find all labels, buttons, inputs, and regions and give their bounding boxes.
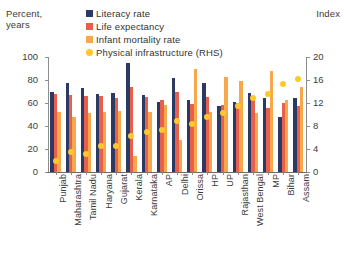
bar-infant-mortality-rate [239, 81, 242, 172]
left-axis-tick-mark [45, 172, 48, 173]
x-axis-category-label: HP [211, 174, 220, 187]
bar-infant-mortality-rate [133, 156, 136, 172]
x-axis-tick-mark [162, 172, 163, 175]
right-axis-tick-label: 0 [313, 167, 339, 177]
bar-infant-mortality-rate [148, 112, 151, 172]
infrastructure-marker-dot [144, 129, 150, 135]
legend-swatch-icon [86, 36, 93, 43]
bar-infant-mortality-rate [300, 87, 303, 172]
x-axis-category-label: Maharashtra [74, 174, 83, 226]
legend-label: Life expectancy [96, 21, 164, 32]
x-axis-category-labels: PunjabMaharashtraTamil NaduHaryanaGujara… [48, 174, 306, 258]
bar-group [291, 57, 306, 172]
bar-group [185, 57, 200, 172]
x-axis-tick-mark [192, 172, 193, 175]
left-axis-tick-label: 60 [12, 98, 38, 108]
x-axis-category-label: Punjab [59, 174, 68, 203]
x-axis-category-label: Karnataka [150, 174, 159, 216]
right-axis-tick-label: 12 [313, 98, 339, 108]
x-axis-category-label: Orissa [196, 174, 205, 201]
x-axis-category-label: Delhi [181, 174, 190, 195]
right-axis-tick-mark [307, 126, 310, 127]
left-axis-tick-label: 40 [12, 121, 38, 131]
x-axis-tick-mark [131, 172, 132, 175]
bar-group [94, 57, 109, 172]
bar-group [260, 57, 275, 172]
infrastructure-marker-dot [265, 91, 271, 97]
right-axis-line [306, 57, 307, 173]
bar-infant-mortality-rate [194, 69, 197, 173]
legend-item: Literacy rate [86, 7, 276, 19]
bar-group [109, 57, 124, 172]
x-axis-category-label: Haryana [105, 174, 114, 209]
legend-label: Literacy rate [96, 8, 150, 19]
x-axis-tick-mark [268, 172, 269, 175]
x-axis-category-label: AP [165, 174, 174, 186]
legend-swatch-icon [86, 49, 93, 56]
chart-legend: Literacy rateLife expectancyInfant morta… [86, 7, 276, 59]
x-axis-category-label: West Bengal [256, 174, 265, 226]
x-axis-tick-mark [101, 172, 102, 175]
infrastructure-marker-dot [220, 110, 226, 116]
bar-group [139, 57, 154, 172]
bar-infant-mortality-rate [103, 112, 106, 172]
right-axis-unit-label: Index [316, 8, 340, 19]
bar-group [245, 57, 260, 172]
bar-infant-mortality-rate [270, 71, 273, 172]
right-axis-tick-label: 4 [313, 144, 339, 154]
bar-infant-mortality-rate [224, 77, 227, 172]
infrastructure-marker-dot [159, 127, 165, 133]
bar-infant-mortality-rate [118, 111, 121, 172]
x-axis-tick-mark [253, 172, 254, 175]
right-axis-tick-mark [307, 57, 310, 58]
right-axis-tick-label: 20 [313, 52, 339, 62]
x-axis-category-label: Bihar [287, 174, 296, 196]
bar-group [124, 57, 139, 172]
bar-group [48, 57, 63, 172]
x-axis-tick-mark [223, 172, 224, 175]
bar-infant-mortality-rate [285, 100, 288, 172]
right-axis-tick-label: 16 [313, 75, 339, 85]
bar-group [276, 57, 291, 172]
bar-group [169, 57, 184, 172]
legend-label: Infant mortality rate [96, 34, 180, 45]
right-axis-tick-mark [307, 172, 310, 173]
x-axis-tick-mark [238, 172, 239, 175]
chart-container: Percent, years Index Literacy rateLife e… [0, 0, 344, 258]
x-axis-tick-mark [207, 172, 208, 175]
left-axis-unit-label: Percent, years [6, 8, 42, 30]
infrastructure-marker-dot [53, 158, 59, 164]
x-axis-category-label: Kerala [135, 174, 144, 201]
x-axis-category-label: Tamil Nadu [89, 174, 98, 220]
x-axis-tick-mark [177, 172, 178, 175]
left-axis-tick-label: 20 [12, 144, 38, 154]
bar-group [154, 57, 169, 172]
infrastructure-marker-dot [83, 151, 89, 157]
x-axis-category-label: Assam [302, 174, 311, 202]
x-axis-tick-mark [56, 172, 57, 175]
x-axis-tick-mark [283, 172, 284, 175]
bar-infant-mortality-rate [88, 113, 91, 172]
x-axis-category-label: Gujarat [120, 174, 129, 204]
legend-item: Infant mortality rate [86, 33, 276, 45]
x-axis-tick-mark [147, 172, 148, 175]
legend-label: Physical infrastructure (RHS) [96, 47, 223, 58]
right-axis-tick-mark [307, 149, 310, 150]
left-axis-tick-label: 80 [12, 75, 38, 85]
bar-infant-mortality-rate [72, 117, 75, 172]
x-axis-tick-mark [116, 172, 117, 175]
x-axis-category-label: MP [272, 174, 281, 188]
bar-infant-mortality-rate [255, 113, 258, 172]
right-axis-tick-mark [307, 80, 310, 81]
left-axis-tick-label: 100 [12, 52, 38, 62]
bar-infant-mortality-rate [179, 140, 182, 172]
plot-area [48, 57, 306, 172]
x-axis-category-label: Rajasthan [241, 174, 250, 215]
infrastructure-marker-dot [68, 149, 74, 155]
bar-infant-mortality-rate [209, 112, 212, 172]
bar-group [230, 57, 245, 172]
x-axis-tick-mark [86, 172, 87, 175]
left-axis-tick-label: 0 [12, 167, 38, 177]
x-axis-tick-mark [298, 172, 299, 175]
legend-swatch-icon [86, 23, 93, 30]
